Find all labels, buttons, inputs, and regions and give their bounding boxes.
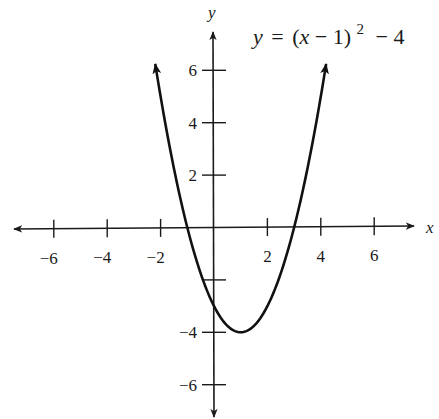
y-tick-label: 6 [189, 61, 198, 80]
x-tick-label: 6 [370, 246, 379, 265]
y-tick-label: −4 [179, 323, 198, 342]
x-tick-label: −4 [93, 248, 112, 267]
y-tick-label: 2 [189, 166, 198, 185]
equation-lhs: y [251, 24, 263, 49]
x-tick-label: −6 [40, 249, 58, 268]
axes: x y [14, 3, 434, 417]
x-tick-label: −2 [147, 248, 165, 267]
x-axis-label: x [425, 218, 434, 237]
y-axis-label: y [206, 3, 216, 22]
parabola-chart: x y −6−4−2246 642−4−6 y = (x − 1) 2 − 4 [0, 0, 439, 419]
equation-base: (x − 1) [292, 24, 351, 49]
y-tick-label: 4 [189, 114, 198, 133]
equation-title: y = (x − 1) 2 − 4 [251, 14, 404, 49]
equation-tail: − 4 [376, 24, 405, 49]
y-axis [213, 32, 214, 417]
equation-equals: = [271, 24, 283, 49]
y-tick-label: −6 [179, 376, 197, 395]
x-ticks: −6−4−2246 [40, 217, 379, 267]
parabola-curve [155, 64, 326, 332]
x-tick-label: 2 [263, 247, 272, 266]
x-tick-label: 4 [317, 247, 326, 266]
equation-exponent: 2 [357, 21, 365, 37]
